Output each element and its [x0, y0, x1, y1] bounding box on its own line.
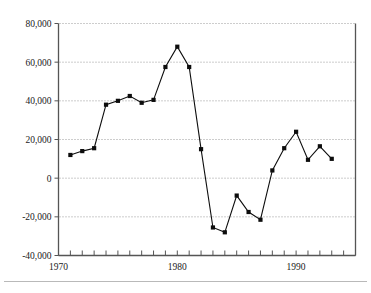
- gridlines: [60, 24, 356, 217]
- data-point-marker: [306, 158, 310, 162]
- y-tick-label: 20,000: [25, 135, 51, 145]
- line-chart: -40,000-20,000020,00040,00060,00080,0001…: [0, 0, 371, 293]
- y-tick-label: 0: [47, 174, 52, 184]
- data-point-marker: [294, 130, 298, 134]
- chart-figure: -40,000-20,000020,00040,00060,00080,0001…: [0, 0, 371, 293]
- y-tick-label: 60,000: [25, 58, 51, 68]
- data-point-marker: [258, 218, 262, 222]
- x-tick-label: 1970: [49, 262, 68, 272]
- data-point-marker: [68, 153, 72, 157]
- footer-divider: [4, 281, 367, 282]
- data-point-marker: [330, 157, 334, 161]
- data-point-marker: [318, 144, 322, 148]
- y-tick-label: 40,000: [25, 96, 51, 106]
- data-point-marker: [282, 146, 286, 150]
- y-tick-label: -40,000: [22, 251, 52, 261]
- data-point-marker: [116, 99, 120, 103]
- data-point-marker: [80, 149, 84, 153]
- y-tick-label: 80,000: [25, 19, 51, 29]
- data-point-marker: [151, 98, 155, 102]
- data-point-marker: [163, 65, 167, 69]
- data-point-marker: [270, 168, 274, 172]
- data-point-marker: [187, 65, 191, 69]
- data-point-marker: [128, 94, 132, 98]
- x-tick-label: 1980: [168, 262, 187, 272]
- x-tick-label: 1990: [287, 262, 306, 272]
- y-axis-ticks: -40,000-20,000020,00040,00060,00080,000: [22, 19, 58, 261]
- data-point-marker: [140, 101, 144, 105]
- data-point-marker: [223, 230, 227, 234]
- data-point-marker: [246, 210, 250, 214]
- data-point-marker: [175, 45, 179, 49]
- x-axis-ticks: 197019801990: [49, 251, 356, 272]
- data-point-marker: [104, 103, 108, 107]
- data-point-marker: [92, 146, 96, 150]
- y-tick-label: -20,000: [22, 212, 52, 222]
- data-point-marker: [199, 147, 203, 151]
- data-point-marker: [235, 193, 239, 197]
- data-point-marker: [211, 225, 215, 229]
